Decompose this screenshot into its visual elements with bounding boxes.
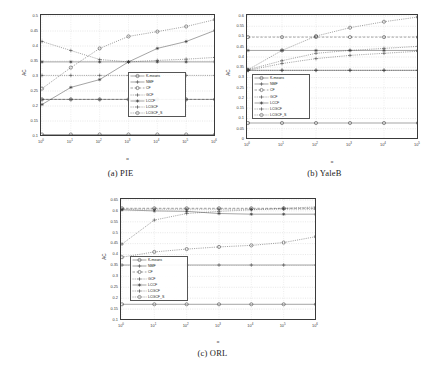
x-axis-label-pie: α [40, 156, 215, 161]
x-tick-label: 102 [177, 322, 195, 328]
legend-item: LCGCF_S [253, 112, 309, 118]
legend-label: LCGCF_S [269, 113, 286, 117]
y-tick-label: 0.25 [25, 88, 38, 93]
y-tick-label: 0.4 [231, 54, 244, 59]
y-tick-label: 0.45 [105, 240, 118, 245]
legend-symbol-icon [254, 75, 269, 81]
series-line [248, 17, 418, 70]
x-tick-label: 104 [241, 322, 259, 328]
legend-label: LCGCF [147, 289, 160, 293]
caption-yaleb: (b) YaleB [222, 168, 427, 178]
legend-label: GCF [147, 277, 155, 281]
x-tick-label: 103 [209, 322, 227, 328]
legend-label: GCF [269, 95, 277, 99]
legend-label: LCGCF_S [145, 111, 162, 115]
x-tick-label: 101 [272, 141, 290, 147]
legend: K-meansNMFCFGCFLCCFLCGCFLCGCF_S [130, 256, 188, 301]
x-tick-label: 103 [119, 138, 137, 144]
y-tick-label: 0.4 [25, 43, 38, 48]
legend-symbol-icon [130, 110, 145, 116]
legend-symbol-icon [130, 73, 145, 79]
panel-yaleb: AC α (b) YaleB 00.050.10.150.20.250.30.3… [222, 8, 427, 183]
legend-label: CF [147, 270, 153, 274]
panel-orl: AC α (c) ORL 0.10.150.20.250.30.350.40.4… [95, 192, 330, 364]
y-tick-label: 0.5 [231, 33, 244, 38]
x-tick-label: 106 [205, 138, 223, 144]
x-axis-label-orl: α [120, 339, 316, 344]
y-tick-label: 0.25 [231, 85, 244, 90]
y-tick-label: 0.2 [25, 103, 38, 108]
x-tick-label: 102 [306, 141, 324, 147]
legend-label: K-means [147, 258, 162, 262]
legend-symbol-icon [130, 104, 145, 110]
y-tick-label: 0.65 [105, 197, 118, 202]
legend-symbol-icon [254, 94, 269, 100]
legend-symbol-icon [132, 282, 147, 288]
x-tick-label: 102 [90, 138, 108, 144]
legend-symbol-icon [254, 81, 269, 87]
y-axis-label-yaleb: AC [226, 63, 231, 83]
legend-symbol-icon [132, 269, 147, 275]
x-tick-label: 101 [61, 138, 79, 144]
y-tick-label: 0.35 [231, 64, 244, 69]
y-tick-label: 0.3 [105, 273, 118, 278]
y-tick-label: 0.1 [231, 115, 244, 120]
series-markers [40, 40, 215, 64]
panel-pie: AC α (a) PIE 0.10.150.20.250.30.350.40.4… [18, 8, 223, 183]
legend: K-meansNMFCFGCFLCCFLCGCFLCGCF_S [252, 74, 310, 119]
y-tick-label: 0.05 [231, 126, 244, 131]
legend-label: LCGCF [269, 107, 282, 111]
legend-label: LCGCF [145, 105, 158, 109]
legend-symbol-icon [254, 100, 269, 106]
legend-label: LCCF [145, 99, 155, 103]
y-tick-label: 0.4 [105, 251, 118, 256]
caption-pie: (a) PIE [18, 168, 223, 178]
legend-symbol-icon [132, 263, 147, 269]
legend-symbol-icon [132, 294, 147, 300]
y-tick-label: 0.25 [105, 284, 118, 289]
y-tick-label: 0.6 [105, 208, 118, 213]
y-tick-label: 0.55 [231, 23, 244, 28]
x-tick-label: 105 [274, 322, 292, 328]
legend-symbol-icon [130, 85, 145, 91]
y-tick-label: 0.45 [231, 44, 244, 49]
y-tick-label: 0.35 [25, 58, 38, 63]
x-tick-label: 101 [144, 322, 162, 328]
legend-label: CF [145, 86, 151, 90]
legend-label: K-means [269, 76, 284, 80]
x-tick-label: 105 [408, 141, 426, 147]
x-tick-label: 103 [340, 141, 358, 147]
legend-symbol-icon [254, 106, 269, 112]
legend-label: LCCF [147, 283, 157, 287]
legend-symbol-icon [132, 276, 147, 282]
y-tick-label: 0.2 [231, 95, 244, 100]
series-markers [120, 207, 316, 211]
x-tick-label: 104 [374, 141, 392, 147]
legend-symbol-icon [130, 79, 145, 85]
legend-label: NMF [147, 264, 156, 268]
legend-label: NMF [145, 80, 154, 84]
legend-symbol-icon [254, 112, 269, 118]
x-tick-label: 104 [147, 138, 165, 144]
series-line [122, 237, 316, 258]
y-tick-label: 0.3 [231, 74, 244, 79]
legend: K-meansNMFCFGCFLCCFLCGCFLCGCF_S [128, 72, 186, 117]
y-tick-label: 0.5 [25, 13, 38, 18]
x-axis-label-yaleb: α [246, 159, 418, 164]
y-tick-label: 0.5 [105, 230, 118, 235]
y-tick-label: 0.15 [231, 105, 244, 110]
x-tick-label: 100 [112, 322, 130, 328]
figure-three-panel-ac-vs-alpha: AC α (a) PIE 0.10.150.20.250.30.350.40.4… [0, 0, 444, 368]
legend-label: LCCF [269, 101, 279, 105]
series-line [248, 51, 418, 70]
legend-item: LCGCF_S [131, 294, 187, 300]
series-markers [246, 15, 418, 71]
legend-symbol-icon [132, 288, 147, 294]
series-markers [246, 45, 418, 72]
legend-label: GCF [145, 93, 153, 97]
legend-label: CF [269, 88, 275, 92]
x-tick-label: 105 [176, 138, 194, 144]
series-line [248, 46, 418, 69]
x-tick-label: 100 [238, 141, 256, 147]
y-tick-label: 0.6 [231, 13, 244, 18]
